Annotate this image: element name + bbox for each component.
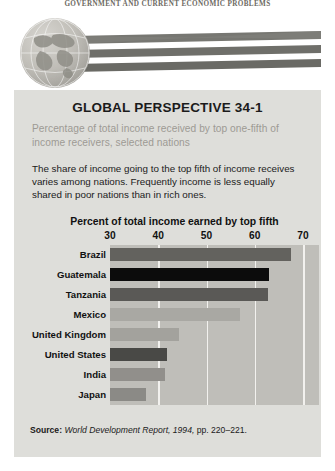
bar-mexico (110, 308, 240, 321)
bar-label-brazil: Brazil (80, 249, 106, 260)
running-head: GOVERNMENT AND CURRENT ECONOMIC PROBLEMS (0, 0, 335, 9)
panel-subtitle: Percentage of total income received by t… (14, 115, 321, 149)
globe-icon (20, 18, 90, 88)
bar-label-japan: Japan (78, 389, 106, 400)
bar-label-tanzania: Tanzania (66, 289, 106, 300)
source-footer: Source: World Development Report, 1994, … (14, 411, 321, 457)
bar-india (110, 368, 165, 381)
bar-row: Tanzania (110, 287, 319, 307)
source-label: Source: (30, 425, 62, 435)
bar-label-guatemala: Guatemala (57, 269, 106, 280)
bar-row: Japan (110, 387, 319, 407)
source-citation: World Development Report, 1994, (64, 425, 194, 435)
bar-row: Guatemala (110, 267, 319, 287)
page-title: GLOBAL PERSPECTIVE 34-1 (14, 90, 321, 115)
x-tick-40: 40 (153, 230, 164, 241)
global-perspective-box: GLOBAL PERSPECTIVE 34-1 Percentage of to… (14, 14, 321, 457)
bar-brazil (110, 248, 291, 261)
x-axis-ticks: 3040506070 (14, 230, 321, 245)
source-pages: pp. 220–221. (197, 425, 247, 435)
panel-body-text: The share of income going to the top fif… (14, 149, 321, 202)
bar-label-india: India (84, 369, 106, 380)
chart: Percent of total income earned by top fi… (14, 202, 321, 405)
bar-japan (110, 388, 146, 401)
bar-label-united-kingdom: United Kingdom (32, 329, 106, 340)
plot-area: BrazilGuatemalaTanzaniaMexicoUnited King… (110, 245, 319, 405)
bar-row: India (110, 367, 319, 387)
chart-title: Percent of total income earned by top fi… (14, 216, 321, 227)
x-tick-60: 60 (249, 230, 260, 241)
x-tick-70: 70 (297, 230, 308, 241)
bar-row: United States (110, 347, 319, 367)
bar-label-mexico: Mexico (73, 309, 106, 320)
x-tick-30: 30 (104, 230, 115, 241)
bar-guatemala (110, 268, 269, 281)
bar-united-kingdom (110, 328, 179, 341)
bar-united-states (110, 348, 167, 361)
bar-row: Mexico (110, 307, 319, 327)
x-tick-50: 50 (201, 230, 212, 241)
bar-row: Brazil (110, 247, 319, 267)
bar-label-united-states: United States (45, 349, 106, 360)
bar-tanzania (110, 288, 268, 301)
content-panel: GLOBAL PERSPECTIVE 34-1 Percentage of to… (14, 90, 321, 457)
bar-row: United Kingdom (110, 327, 319, 347)
banner (14, 14, 321, 90)
